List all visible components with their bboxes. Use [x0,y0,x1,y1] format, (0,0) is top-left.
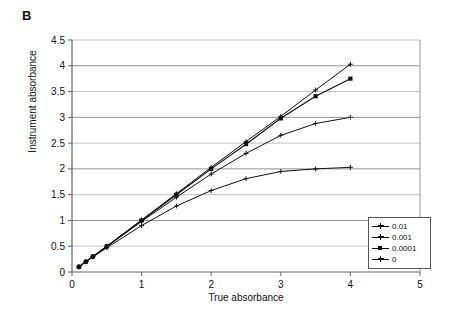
data-point-marker [278,133,283,138]
data-point-marker [278,169,283,174]
x-tick-labels: 012345 [69,272,423,290]
x-tick-label: 1 [139,279,145,290]
data-point-marker [139,223,144,228]
y-tick-label: 2.5 [51,138,65,149]
data-point-marker [244,176,249,181]
legend-marker-plus-icon [372,222,389,231]
data-point-marker [348,115,353,120]
legend-label: 0.01 [392,222,408,231]
series-line [79,64,350,267]
legend-marker-plus-icon [372,233,389,242]
legend-label: 0.001 [392,233,412,242]
y-tick-label: 2 [59,163,65,174]
x-tick-label: 3 [278,279,284,290]
data-point-marker [313,166,318,171]
y-tick-label: 4 [59,60,65,71]
data-series [77,62,353,269]
legend-item[interactable]: 0 [372,254,428,265]
data-point-marker [174,204,179,209]
y-tick-label: 3 [59,112,65,123]
figure-panel-b: B Instrument absorbance True absorbance … [0,0,456,316]
series-line [79,117,350,267]
y-tick-label: 4.5 [51,35,65,46]
legend-item[interactable]: 0.0001 [372,243,428,254]
y-tick-label: 0 [59,267,65,278]
data-point-marker [209,188,214,193]
series-line [79,167,350,267]
x-tick-label: 0 [69,279,75,290]
x-tick-label: 2 [208,279,214,290]
data-series-layer [77,62,353,269]
legend-label: 0 [392,255,396,264]
data-point-marker [313,121,318,126]
x-tick-label: 5 [417,279,423,290]
y-tick-label: 0.5 [51,241,65,252]
chart-legend: 0.01 0.001 0.0001 0 [368,217,431,269]
y-tick-label: 1 [59,215,65,226]
y-tick-labels: 00.511.522.533.544.5 [51,35,72,278]
data-point-marker [244,151,249,156]
y-tick-label: 1.5 [51,189,65,200]
legend-item[interactable]: 0.01 [372,221,428,232]
legend-item[interactable]: 0.001 [372,232,428,243]
data-point-marker [348,77,352,81]
legend-marker-plus-icon [372,255,389,264]
x-tick-label: 4 [348,279,354,290]
data-series [77,165,353,269]
legend-label: 0.0001 [392,244,416,253]
y-tick-label: 3.5 [51,86,65,97]
legend-marker-square-icon [372,244,389,253]
series-line [79,79,350,267]
data-point-marker [314,94,318,98]
